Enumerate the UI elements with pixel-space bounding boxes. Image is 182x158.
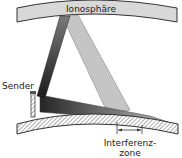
transmitter-label: Sender bbox=[2, 81, 34, 91]
interference-label-line1: Interferenz- bbox=[104, 138, 157, 148]
transmitter-antenna-icon bbox=[30, 91, 36, 117]
earth-surface bbox=[17, 114, 178, 134]
reflected-beam bbox=[62, 15, 130, 114]
incident-beam bbox=[37, 16, 70, 98]
interference-label-line2: zone bbox=[119, 148, 141, 158]
ionosphere-label: Ionosphäre bbox=[66, 4, 116, 14]
ionosphere-propagation-diagram: Ionosphäre Sender Interferenz- zone bbox=[0, 0, 182, 158]
